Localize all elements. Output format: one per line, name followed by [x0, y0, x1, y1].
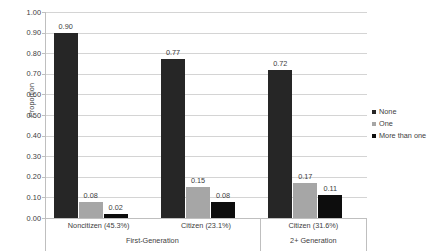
grid-line	[45, 53, 367, 54]
y-tick-label: 0.80	[0, 50, 41, 57]
y-tick-label: 0.60	[0, 91, 41, 98]
x-category-label: Noncitizen (45.3%)	[45, 221, 152, 230]
y-tick-label: 0.40	[0, 132, 41, 139]
bar-chart: Proportion 1.000.900.800.700.600.500.400…	[0, 0, 432, 252]
legend-swatch-icon	[372, 122, 376, 126]
y-tick-label: 0.10	[0, 194, 41, 201]
x-category-label: Citizen (23.1%)	[152, 221, 259, 230]
bar-value-label: 0.08	[205, 192, 241, 199]
y-tick-label: 1.00	[0, 9, 41, 16]
bar-value-label: 0.90	[48, 23, 84, 30]
bar-value-label: 0.77	[155, 49, 191, 56]
x-axis: Noncitizen (45.3%)Citizen (23.1%)Citizen…	[45, 218, 367, 252]
grid-line	[45, 115, 367, 116]
x-group-label: First-Generation	[45, 236, 260, 245]
legend-swatch-icon	[372, 110, 376, 114]
y-tick-label: 0.30	[0, 153, 41, 160]
bar-value-label: 0.17	[287, 173, 323, 180]
x-category-label: Citizen (31.6%)	[260, 221, 367, 230]
bar	[54, 33, 78, 218]
grid-line	[45, 156, 367, 157]
x-axis-separator	[45, 218, 46, 251]
x-axis-separator	[366, 218, 367, 251]
y-tick-label: 0.70	[0, 70, 41, 77]
grid-line	[45, 33, 367, 34]
y-tick-label: 0.20	[0, 173, 41, 180]
legend-item[interactable]: More than one	[372, 130, 432, 141]
bar	[211, 202, 235, 218]
legend-item[interactable]: None	[372, 106, 432, 117]
bar	[318, 195, 342, 218]
legend-swatch-icon	[372, 134, 376, 138]
bar-value-label: 0.15	[180, 177, 216, 184]
legend-label: One	[379, 120, 393, 127]
grid-line	[45, 136, 367, 137]
bar-value-label: 0.11	[312, 185, 348, 192]
y-axis-line	[45, 12, 46, 218]
grid-line	[45, 74, 367, 75]
bar-value-label: 0.72	[262, 60, 298, 67]
bar	[161, 59, 185, 218]
legend-label: More than one	[379, 132, 426, 139]
plot-area: 0.900.080.020.770.150.080.720.170.11	[45, 12, 367, 218]
legend-label: None	[379, 108, 396, 115]
grid-line	[45, 12, 367, 13]
bar-value-label: 0.02	[98, 204, 134, 211]
bar-value-label: 0.08	[73, 192, 109, 199]
bar	[268, 70, 292, 218]
grid-line	[45, 94, 367, 95]
legend-item[interactable]: One	[372, 118, 432, 129]
y-tick-label: 0.50	[0, 112, 41, 119]
x-group-label: 2+ Generation	[260, 236, 367, 245]
chart-legend: NoneOneMore than one	[372, 106, 432, 142]
y-tick-label: 0.90	[0, 29, 41, 36]
x-axis-separator	[260, 218, 261, 251]
y-tick-label: 0.00	[0, 215, 41, 222]
